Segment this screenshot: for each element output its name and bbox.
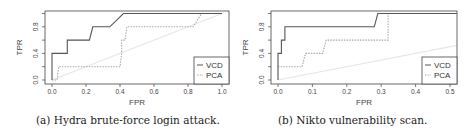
caption-hydra: (a) Hydra brute-force login attack. xyxy=(36,114,220,126)
x-tick-label: 0.2 xyxy=(81,88,90,95)
y-axis-label: TPR xyxy=(15,39,24,55)
roc-charts: 0.00.20.40.60.81.00.00.40.8FPRTPRVCDPCA … xyxy=(0,0,470,112)
y-tick-label: 0.8 xyxy=(32,22,39,31)
y-tick-label: 0.0 xyxy=(32,75,39,84)
x-tick-label: 0.6 xyxy=(149,88,158,95)
x-tick-label: 0.4 xyxy=(115,88,124,95)
x-tick-label: 0.1 xyxy=(308,88,317,95)
y-tick-label: 0.4 xyxy=(32,49,39,58)
chart-nikto: 0.00.10.20.30.40.50.00.40.8FPRTPRVCDPCA xyxy=(241,11,457,107)
x-tick-label: 0.3 xyxy=(377,88,386,95)
x-tick-label: 0.5 xyxy=(445,88,454,95)
y-axis-label: TPR xyxy=(241,39,250,55)
x-axis-label: FPR xyxy=(356,98,372,107)
x-tick-label: 0.8 xyxy=(183,88,192,95)
x-tick-label: 0.4 xyxy=(411,88,420,95)
y-tick-label: 0.8 xyxy=(258,22,265,31)
y-tick-label: 0.4 xyxy=(258,49,265,58)
caption-nikto: (b) Nikto vulnerability scan. xyxy=(278,114,427,126)
x-axis-label: FPR xyxy=(129,98,145,107)
x-tick-label: 0.2 xyxy=(342,88,351,95)
chart-hydra: 0.00.20.40.60.81.00.00.40.8FPRTPRVCDPCA xyxy=(15,11,229,107)
x-tick-label: 1.0 xyxy=(217,88,226,95)
x-tick-label: 0.0 xyxy=(47,88,56,95)
x-tick-label: 0.0 xyxy=(273,88,282,95)
legend-label-vcd: VCD xyxy=(206,61,223,70)
legend-label-pca: PCA xyxy=(434,71,451,80)
legend-label-pca: PCA xyxy=(206,71,223,80)
legend-label-vcd: VCD xyxy=(434,61,451,70)
y-tick-label: 0.0 xyxy=(258,75,265,84)
